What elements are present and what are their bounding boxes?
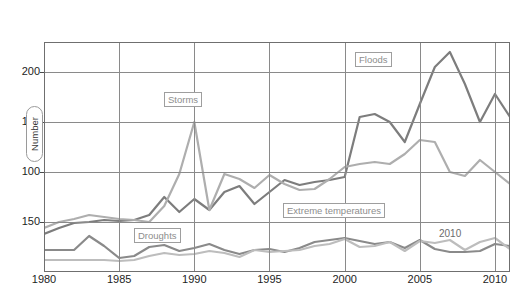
annotation-year-2010: 2010 <box>439 228 461 239</box>
series-label-floods: Floods <box>355 52 392 67</box>
x-tick-label: 1995 <box>257 274 281 285</box>
x-axis-tick-labels: 1980198519901995200020052010 <box>0 274 521 296</box>
y-tick-label: 100 <box>22 166 40 177</box>
x-tick-label: 2000 <box>332 274 356 285</box>
series-label-droughts: Droughts <box>134 228 181 243</box>
x-tick-label: 2005 <box>408 274 432 285</box>
y-axis-title-text: Number <box>26 106 43 162</box>
y-tick-label: 150 <box>22 216 40 227</box>
x-tick-label: 2010 <box>483 274 507 285</box>
y-tick-label: 200 <box>22 66 40 77</box>
series-label-extreme-temperatures: Extreme temperatures <box>283 203 385 218</box>
series-label-storms: Storms <box>164 92 202 107</box>
chart-figure: 200150100150 Number 19801985199019952000… <box>0 0 521 296</box>
y-axis-title: Number <box>26 106 43 162</box>
x-tick-label: 1990 <box>182 274 206 285</box>
x-tick-label: 1985 <box>107 274 131 285</box>
x-tick-label: 1980 <box>32 274 56 285</box>
